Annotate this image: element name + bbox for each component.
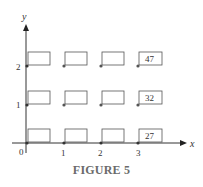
box [28,52,50,65]
y-axis-arrow-icon [23,24,29,31]
y-axis-label: y [21,11,27,22]
box-value: 32 [145,93,154,103]
lattice-point [62,103,65,106]
lattice-point [136,64,139,67]
figure-caption: FIGURE 5 [0,163,203,178]
lattice-point [99,141,102,144]
lattice-point [25,64,28,67]
lattice-point [25,103,28,106]
y-tick-2: 2 [16,62,21,72]
x-tick-1: 1 [61,148,66,158]
lattice-point [62,64,65,67]
x-axis-label: x [189,138,195,149]
x-tick-3: 3 [136,148,141,158]
lattice-diagram: x y 0 1 2 3 1 2 47 32 27 [0,0,203,187]
row-y1: 32 [25,91,162,107]
x-axis-arrow-icon [180,140,187,146]
box [28,91,50,104]
lattice-point [136,103,139,106]
box [102,129,124,142]
row-y0: 27 [25,129,162,145]
row-y2: 47 [25,52,162,68]
box [65,129,87,142]
box [65,52,87,65]
lattice-point [25,141,28,144]
box [65,91,87,104]
y-tick-1: 1 [16,100,21,110]
lattice-point [136,141,139,144]
box-value: 27 [145,131,155,141]
box-value: 47 [145,54,155,64]
box [102,91,124,104]
lattice-point [99,64,102,67]
origin-label: 0 [19,147,24,157]
x-tick-2: 2 [98,148,103,158]
axes: x y 0 1 2 3 1 2 [12,11,195,158]
lattice-point [62,141,65,144]
box [28,129,50,142]
lattice-point [99,103,102,106]
box [102,52,124,65]
